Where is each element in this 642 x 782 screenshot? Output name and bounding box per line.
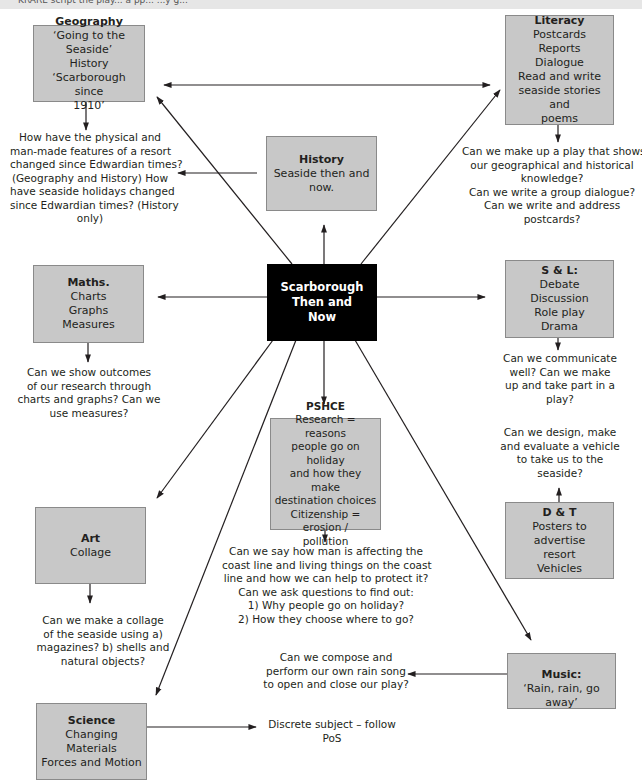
dt-title: D & T <box>543 506 577 520</box>
literacy-line: Read and write <box>518 70 601 84</box>
central-topic-box: Scarborough Then and Now <box>267 264 377 341</box>
history-box: History Seaside then and now. <box>266 136 377 211</box>
pshce-question: Can we say how man is affecting the coas… <box>222 545 430 626</box>
note-line: natural objects? <box>28 655 178 669</box>
geography-title: Geography <box>55 15 123 29</box>
literacy-line: Reports <box>538 42 580 56</box>
note-line: Can we write and address <box>462 199 642 213</box>
design-technology-box: D & T Posters to advertise resort Vehicl… <box>505 502 614 579</box>
geography-history-question: How have the physical and man-made featu… <box>10 131 170 226</box>
music-question: Can we compose and perform our own rain … <box>260 651 412 692</box>
note-line: since Edwardian times? (History <box>10 199 170 213</box>
note-line: have seaside holidays changed <box>10 185 170 199</box>
note-line: to take us to the <box>497 453 623 467</box>
sl-line: Role play <box>534 306 585 320</box>
note-line: only) <box>10 212 170 226</box>
science-line: Forces and Motion <box>41 756 141 770</box>
speaking-listening-box: S & L: Debate Discussion Role play Drama <box>505 260 614 338</box>
central-topic-line: Then and <box>292 295 352 310</box>
note-line: (Geography and History) How <box>10 172 170 186</box>
art-question: Can we make a collage of the seaside usi… <box>28 614 178 668</box>
note-line: postcards? <box>462 213 642 227</box>
note-line: of our research through <box>14 380 164 394</box>
note-line: and evaluate a vehicle <box>497 440 623 454</box>
pshce-box: PSHCE Research = reasons people go on ho… <box>270 418 381 530</box>
note-line: changed since Edwardian times? <box>10 158 170 172</box>
arrow-center-art <box>157 340 273 498</box>
note-line: to open and close our play? <box>260 678 412 692</box>
science-line: Changing Materials <box>40 728 143 756</box>
note-line: Can we communicate <box>500 352 620 366</box>
art-line: Collage <box>70 546 111 560</box>
note-line: Can we say how man is affecting the <box>222 545 430 559</box>
literacy-question: Can we make up a play that shows our geo… <box>462 145 642 226</box>
music-line: ‘Rain, rain, go away’ <box>511 682 612 710</box>
science-box: Science Changing Materials Forces and Mo… <box>36 703 147 780</box>
literacy-line: seaside stories and <box>509 84 610 112</box>
dt-line: Vehicles <box>537 562 582 576</box>
sl-line: Debate <box>539 278 579 292</box>
note-line: our geographical and historical <box>462 159 642 173</box>
pshce-title: PSHCE <box>306 400 345 414</box>
maths-box: Maths. Charts Graphs Measures <box>33 265 144 343</box>
art-box: Art Collage <box>35 507 146 584</box>
maths-question: Can we show outcomes of our research thr… <box>14 366 164 420</box>
history-line: now. <box>309 181 334 195</box>
pshce-line: and how they make <box>274 467 377 494</box>
maths-line: Graphs <box>69 304 108 318</box>
speaking-listening-question: Can we communicate well? Can we make up … <box>500 352 620 406</box>
geography-line: 1910’ <box>73 99 105 113</box>
note-line: Can we ask questions to find out: <box>222 586 430 600</box>
geography-line: History <box>69 57 108 71</box>
design-technology-question: Can we design, make and evaluate a vehic… <box>497 426 623 480</box>
note-line: play? <box>500 393 620 407</box>
literacy-line: Dialogue <box>535 56 584 70</box>
note-line: Can we compose and <box>260 651 412 665</box>
note-line: line and how we can help to protect it? <box>222 572 430 586</box>
note-line: magazines? b) shells and <box>28 641 178 655</box>
literacy-title: Literacy <box>534 14 584 28</box>
central-topic-line: Scarborough <box>281 280 364 295</box>
literacy-line: poems <box>541 112 578 126</box>
sl-title: S & L: <box>541 264 578 278</box>
central-topic-line: Now <box>308 310 336 325</box>
note-line: PoS <box>262 732 402 746</box>
literacy-box: Literacy Postcards Reports Dialogue Read… <box>505 15 614 125</box>
pshce-line: Research = reasons <box>274 413 377 440</box>
music-title: Music: <box>541 668 581 682</box>
literacy-line: Postcards <box>533 28 586 42</box>
maths-line: Charts <box>71 290 107 304</box>
history-title: History <box>299 153 344 167</box>
geography-line: ‘Going to the Seaside’ <box>37 29 141 57</box>
sl-line: Discussion <box>530 292 589 306</box>
history-line: Seaside then and <box>274 167 370 181</box>
note-line: charts and graphs? Can we <box>14 393 164 407</box>
note-line: seaside? <box>497 467 623 481</box>
note-line: 2) How they choose where to go? <box>222 613 430 627</box>
note-line: Discrete subject – follow <box>262 718 402 732</box>
geography-line: ‘Scarborough since <box>37 71 141 99</box>
note-line: Can we make a collage <box>28 614 178 628</box>
note-line: of the seaside using a) <box>28 628 178 642</box>
maths-title: Maths. <box>67 276 109 290</box>
science-title: Science <box>68 714 116 728</box>
note-line: perform our own rain song <box>260 665 412 679</box>
music-box: Music: ‘Rain, rain, go away’ <box>507 653 616 709</box>
note-line: coast line and living things on the coas… <box>222 559 430 573</box>
note-line: Can we make up a play that shows <box>462 145 642 159</box>
note-line: man-made features of a resort <box>10 145 170 159</box>
note-line: Can we write a group dialogue? <box>462 186 642 200</box>
pshce-line: destination choices <box>275 494 377 508</box>
note-line: How have the physical and <box>10 131 170 145</box>
geography-box: Geography ‘Going to the Seaside’ History… <box>33 25 145 102</box>
science-note: Discrete subject – follow PoS <box>262 718 402 745</box>
note-line: up and take part in a <box>500 379 620 393</box>
note-line: well? Can we make <box>500 366 620 380</box>
art-title: Art <box>81 532 100 546</box>
maths-line: Measures <box>62 318 114 332</box>
note-line: 1) Why people go on holiday? <box>222 599 430 613</box>
pshce-line: people go on holiday <box>274 440 377 467</box>
pshce-line: Citizenship = erosion / <box>274 508 377 535</box>
dt-line: Posters to advertise <box>509 520 610 548</box>
sl-line: Drama <box>541 320 578 334</box>
